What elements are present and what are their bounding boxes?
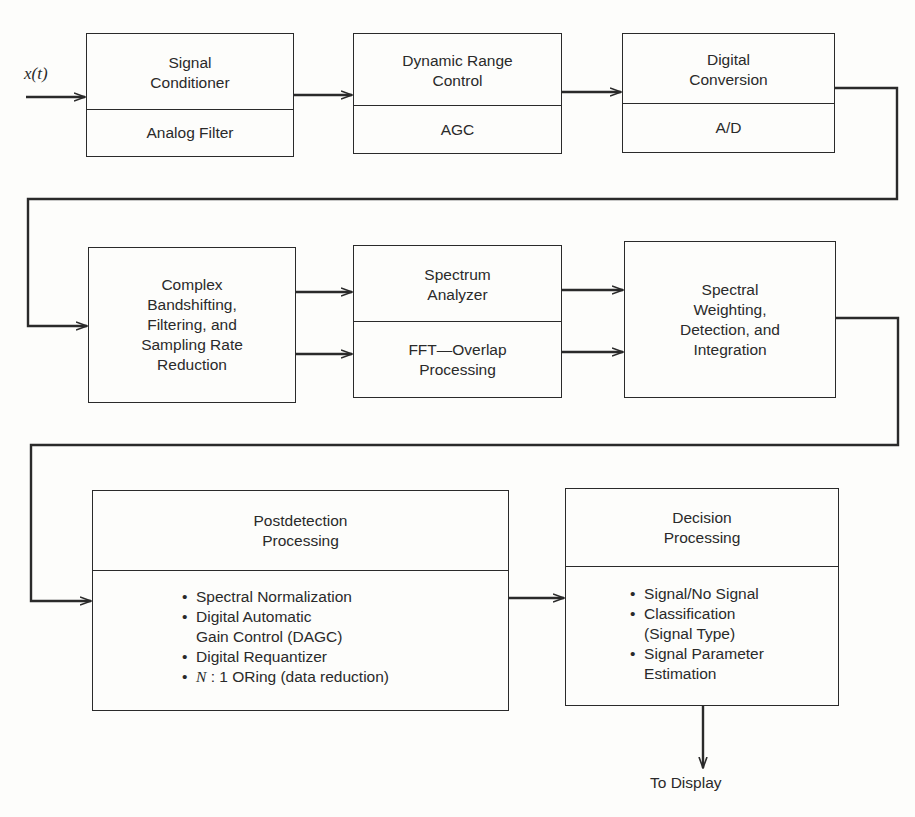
- list-item: Digital Requantizer: [182, 647, 389, 667]
- block-dynamic-range-control: Dynamic Range Control AGC: [353, 33, 562, 154]
- block-title: Spectrum Analyzer: [424, 265, 490, 305]
- block-items-area: Signal/No Signal Classification (Signal …: [566, 566, 838, 705]
- block-title-area: Complex Bandshifting, Filtering, and Sam…: [89, 248, 295, 402]
- block-spectrum-analyzer: Spectrum Analyzer FFT—Overlap Processing: [353, 245, 562, 398]
- block-spectral-weighting: Spectral Weighting, Detection, and Integ…: [624, 241, 836, 398]
- block-postdetection-processing: Postdetection Processing Spectral Normal…: [92, 490, 509, 711]
- list-item: Signal Parameter Estimation: [630, 644, 764, 684]
- block-items-area: Spectral Normalization Digital Automatic…: [93, 570, 508, 710]
- list-item: Spectral Normalization: [182, 587, 389, 607]
- block-title: Decision Processing: [664, 508, 741, 548]
- block-subtitle: A/D: [716, 118, 742, 138]
- block-title: Spectral Weighting, Detection, and Integ…: [680, 280, 780, 360]
- block-title: Dynamic Range Control: [402, 51, 512, 91]
- block-digital-conversion: Digital Conversion A/D: [622, 33, 835, 153]
- block-subtitle-area: A/D: [623, 103, 834, 152]
- input-signal-label: x(t): [24, 64, 48, 84]
- list-item: Classification (Signal Type): [630, 604, 764, 644]
- block-signal-conditioner: Signal Conditioner Analog Filter: [86, 33, 294, 157]
- list-item: Signal/No Signal: [630, 584, 764, 604]
- postdetection-item-list: Spectral Normalization Digital Automatic…: [182, 587, 389, 687]
- block-title-area: Dynamic Range Control: [354, 34, 561, 107]
- block-title-area: Spectral Weighting, Detection, and Integ…: [625, 242, 835, 397]
- block-subtitle: AGC: [441, 120, 475, 140]
- decision-item-list: Signal/No Signal Classification (Signal …: [630, 584, 764, 684]
- block-title: Signal Conditioner: [150, 53, 229, 93]
- block-subtitle-area: FFT—Overlap Processing: [354, 321, 561, 397]
- block-subtitle-area: Analog Filter: [87, 109, 293, 156]
- block-title: Postdetection Processing: [254, 511, 348, 551]
- block-subtitle: FFT—Overlap Processing: [408, 340, 506, 380]
- list-item: Digital Automatic Gain Control (DAGC): [182, 607, 389, 647]
- block-title-area: Spectrum Analyzer: [354, 246, 561, 323]
- block-title-area: Decision Processing: [566, 489, 838, 567]
- block-title-area: Postdetection Processing: [93, 491, 508, 571]
- block-title-area: Signal Conditioner: [87, 34, 293, 111]
- output-label: To Display: [650, 774, 722, 792]
- block-title: Complex Bandshifting, Filtering, and Sam…: [141, 275, 243, 375]
- block-subtitle-area: AGC: [354, 105, 561, 153]
- block-complex-bandshifting: Complex Bandshifting, Filtering, and Sam…: [88, 247, 296, 403]
- block-subtitle: Analog Filter: [146, 123, 233, 143]
- block-title: Digital Conversion: [689, 50, 767, 90]
- block-decision-processing: Decision Processing Signal/No Signal Cla…: [565, 488, 839, 706]
- block-title-area: Digital Conversion: [623, 34, 834, 105]
- list-item-n-oring: N : 1 ORing (data reduction): [182, 667, 389, 687]
